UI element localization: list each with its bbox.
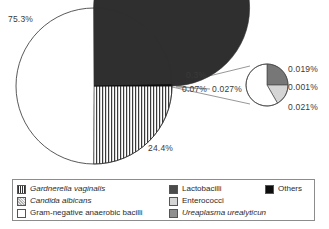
value-label-gram-negative: 0.021% (288, 102, 318, 112)
value-label-gardnerella: 24.4% (148, 143, 173, 153)
chart-legend: Gardnerella vaginalis Candida albicans G… (12, 179, 315, 221)
legend-item-label: Enterococci (182, 196, 224, 206)
legend-item-label: Gram-negative anaerobic bacilli (30, 208, 143, 218)
legend-item-label: Candida albicans (30, 196, 91, 206)
legend-item-enterococci: Enterococci (169, 195, 261, 207)
legend-item-others: Others (265, 183, 320, 195)
slice-lactobacilli (94, 0, 250, 86)
light-gray-swatch-icon (169, 197, 178, 206)
legend-column-2: Lactobacilli Enterococci Ureaplasma urea… (169, 183, 261, 219)
value-label-callout-007: 0.07% (182, 84, 207, 94)
pie-chart-figure: 75.3% 24.4% 0.3% 0.07% 0.027% 0.019% 0.0… (0, 0, 329, 229)
stipple-swatch-icon (17, 197, 26, 206)
legend-item-label: Gardnerella vaginalis (30, 184, 105, 194)
black-swatch-icon (265, 185, 274, 194)
value-label-ureaplasma: 0.019% (288, 64, 318, 74)
value-label-enterococci: 0.001% (288, 82, 318, 92)
legend-item-label: Ureaplasma urealyticun (182, 208, 266, 218)
value-label-others: 0.3% (186, 70, 206, 80)
legend-item-gardnerella-vaginalis: Gardnerella vaginalis (17, 183, 167, 195)
legend-item-candida-albicans: Candida albicans (17, 195, 167, 207)
main-pie (16, 0, 250, 164)
legend-item-label: Others (278, 184, 302, 194)
dark-gray-swatch-icon (169, 185, 178, 194)
value-label-callout-0027: 0.027% (212, 84, 242, 94)
legend-item-gram-negative-anaerobic-bacilli: Gram-negative anaerobic bacilli (17, 207, 167, 219)
legend-column-1: Gardnerella vaginalis Candida albicans G… (17, 183, 167, 219)
striped-swatch-icon (17, 185, 26, 194)
chart-plot-area: 75.3% 24.4% 0.3% 0.07% 0.027% 0.019% 0.0… (0, 0, 329, 168)
white-swatch-icon (17, 209, 26, 218)
legend-item-ureaplasma-urealyticun: Ureaplasma urealyticun (169, 207, 261, 219)
legend-item-label: Lactobacilli (182, 184, 222, 194)
legend-column-3: Others (265, 183, 320, 195)
detail-pie (246, 64, 288, 106)
legend-item-lactobacilli: Lactobacilli (169, 183, 261, 195)
mid-gray-swatch-icon (169, 209, 178, 218)
value-label-lactobacilli: 75.3% (8, 14, 33, 24)
